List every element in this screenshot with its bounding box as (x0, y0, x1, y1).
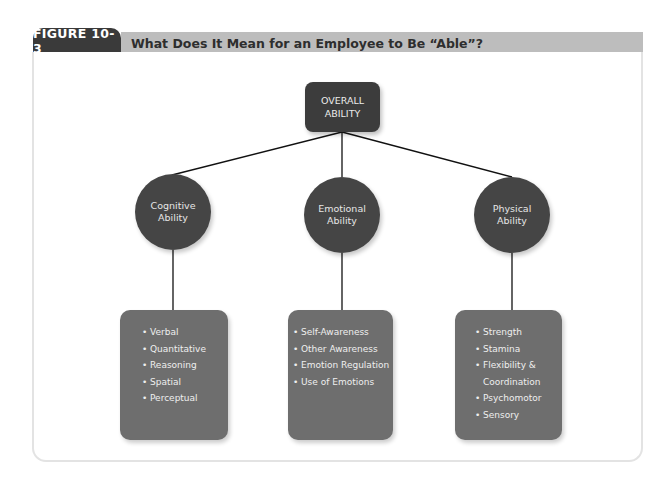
list-item: Use of Emotions (293, 374, 393, 391)
node-label: Cognitive (151, 200, 196, 212)
list-item: Strength (475, 324, 562, 341)
node-label: Physical (493, 203, 532, 215)
cognitive-ability-node: Cognitive Ability (135, 174, 211, 250)
node-label: Emotional (318, 203, 366, 215)
list-item: Flexibility & (475, 357, 562, 374)
cognitive-list-box: Verbal Quantitative Reasoning Spatial Pe… (120, 310, 228, 440)
list-item-continuation: Coordination (475, 374, 562, 391)
list-item: Spatial (142, 374, 228, 391)
node-label: Ability (327, 215, 357, 227)
list-item: Sensory (475, 407, 562, 424)
node-label: Ability (497, 215, 527, 227)
overall-ability-node: OVERALL ABILITY (305, 82, 380, 132)
emotional-ability-node: Emotional Ability (304, 177, 380, 253)
node-label: OVERALL (321, 94, 364, 107)
list-item: Psychomotor (475, 390, 562, 407)
list-item: Stamina (475, 341, 562, 358)
physical-list-box: Strength Stamina Flexibility & Coordinat… (455, 310, 562, 440)
list-item: Self-Awareness (293, 324, 393, 341)
node-label: Ability (158, 212, 188, 224)
list-item: Reasoning (142, 357, 228, 374)
emotional-list-box: Self-Awareness Other Awareness Emotion R… (288, 310, 393, 440)
list-item: Other Awareness (293, 341, 393, 358)
list-item: Emotion Regulation (293, 357, 393, 374)
list-item: Quantitative (142, 341, 228, 358)
node-label: ABILITY (325, 107, 361, 120)
list-item: Perceptual (142, 390, 228, 407)
list-item: Verbal (142, 324, 228, 341)
physical-ability-node: Physical Ability (474, 177, 550, 253)
